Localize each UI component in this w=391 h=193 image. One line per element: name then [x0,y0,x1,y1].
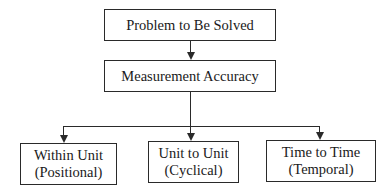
arrowhead-icon [316,132,324,140]
arrowhead-icon [187,52,195,60]
node-problem-to-be-solved: Problem to Be Solved [104,9,276,41]
arrowhead-icon [187,133,195,141]
node-within-unit: Within Unit (Positional) [20,143,117,185]
connector-branch [63,126,320,127]
node-label-line1: Unit to Unit [158,145,228,162]
connector-trunk [190,92,191,126]
node-label: Problem to Be Solved [126,17,254,34]
node-label: Measurement Accuracy [121,68,258,85]
node-label-line1: Within Unit [34,147,103,164]
node-label-line2: (Positional) [35,164,103,181]
arrowhead-icon [60,135,68,143]
node-unit-to-unit: Unit to Unit (Cyclical) [148,141,239,183]
node-label-line1: Time to Time [282,144,360,161]
node-label-line2: (Temporal) [288,161,353,178]
node-measurement-accuracy: Measurement Accuracy [104,60,276,92]
node-time-to-time: Time to Time (Temporal) [266,140,376,182]
node-label-line2: (Cyclical) [165,162,223,179]
